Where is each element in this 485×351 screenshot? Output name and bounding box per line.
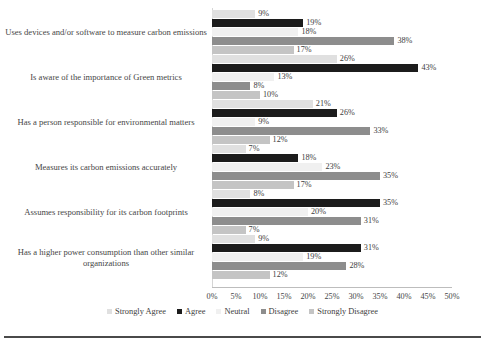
x-tick-label: 10%	[252, 292, 267, 301]
bar-groups: 9%19%18%38%17%26%43%13%8%10%21%26%9%33%1…	[212, 4, 452, 288]
x-axis-ticks: 0%5%10%15%20%25%30%35%40%45%50%	[212, 292, 452, 306]
bar	[212, 154, 298, 162]
bar-row: 18%	[212, 154, 452, 162]
bar-row: 9%	[212, 10, 452, 18]
bar-value-label: 35%	[383, 198, 398, 207]
bar-value-label: 17%	[297, 180, 312, 189]
bar-row: 38%	[212, 37, 452, 45]
bar-value-label: 18%	[301, 27, 316, 36]
bar	[212, 226, 246, 234]
bar-value-label: 8%	[253, 189, 264, 198]
bar	[212, 199, 380, 207]
legend-item[interactable]: Disagree	[261, 307, 299, 316]
bar-row: 17%	[212, 46, 452, 54]
x-axis-line	[212, 287, 452, 288]
category-label: Is aware of the importance of Green metr…	[4, 72, 208, 83]
bar	[212, 208, 308, 216]
category-label: Has a person responsible for environment…	[4, 117, 208, 128]
bar-value-label: 12%	[273, 270, 288, 279]
x-tick-label: 15%	[276, 292, 291, 301]
bar-row: 28%	[212, 262, 452, 270]
bar-value-label: 35%	[383, 171, 398, 180]
legend-item[interactable]: Neutral	[216, 307, 249, 316]
legend-swatch-icon	[177, 309, 182, 314]
bar-value-label: 12%	[273, 135, 288, 144]
bar	[212, 109, 337, 117]
bar-row: 8%	[212, 82, 452, 90]
x-tick-label: 20%	[300, 292, 315, 301]
bar	[212, 73, 274, 81]
bar-row: 7%	[212, 145, 452, 153]
bar-value-label: 43%	[421, 63, 436, 72]
legend-item[interactable]: Strongly Agree	[107, 307, 166, 316]
x-tick-label: 5%	[231, 292, 242, 301]
bar-row: 26%	[212, 55, 452, 63]
legend-item[interactable]: Agree	[177, 307, 205, 316]
bar-row: 7%	[212, 226, 452, 234]
legend-label: Disagree	[269, 307, 299, 316]
bar	[212, 10, 255, 18]
bar-value-label: 19%	[306, 18, 321, 27]
bar-row: 8%	[212, 190, 452, 198]
x-tick-label: 0%	[207, 292, 218, 301]
legend-label: Strongly Disagree	[317, 307, 378, 316]
bar	[212, 82, 250, 90]
bar-group: 26%43%13%8%10%	[212, 55, 452, 100]
x-tick-label: 25%	[324, 292, 339, 301]
bar-row: 35%	[212, 199, 452, 207]
bar-value-label: 9%	[258, 117, 269, 126]
bar-row: 31%	[212, 217, 452, 225]
bar-row: 17%	[212, 181, 452, 189]
bar-row: 9%	[212, 118, 452, 126]
bar	[212, 244, 361, 252]
bar-value-label: 18%	[301, 153, 316, 162]
legend-item[interactable]: Strongly Disagree	[309, 307, 378, 316]
bar-value-label: 23%	[325, 162, 340, 171]
x-tick-label: 50%	[444, 292, 459, 301]
category-label: Measures its carbon emissions accurately	[4, 162, 208, 173]
legend-label: Agree	[185, 307, 205, 316]
bar	[212, 118, 255, 126]
bar-row: 43%	[212, 64, 452, 72]
bar-value-label: 13%	[277, 72, 292, 81]
bar	[212, 46, 294, 54]
x-tick-label: 45%	[420, 292, 435, 301]
bar-group: 9%31%19%28%12%	[212, 235, 452, 280]
bar-value-label: 33%	[373, 126, 388, 135]
bar-group: 9%19%18%38%17%	[212, 10, 452, 55]
bar-row: 12%	[212, 136, 452, 144]
bar	[212, 190, 250, 198]
legend-label: Neutral	[224, 307, 249, 316]
bar-value-label: 31%	[364, 216, 379, 225]
bar-row: 31%	[212, 244, 452, 252]
bar-row: 23%	[212, 163, 452, 171]
bar-value-label: 9%	[258, 9, 269, 18]
bar-group: 8%35%20%31%7%	[212, 190, 452, 235]
bar	[212, 37, 394, 45]
bar	[212, 172, 380, 180]
bar	[212, 136, 270, 144]
x-tick-label: 40%	[396, 292, 411, 301]
bar-row: 26%	[212, 109, 452, 117]
bar-value-label: 20%	[311, 207, 326, 216]
bar-row: 35%	[212, 172, 452, 180]
bar	[212, 253, 303, 261]
bar-value-label: 21%	[316, 99, 331, 108]
bar	[212, 55, 337, 63]
bar-value-label: 26%	[340, 54, 355, 63]
bar-row: 9%	[212, 235, 452, 243]
bar-value-label: 17%	[297, 45, 312, 54]
bar-row: 21%	[212, 100, 452, 108]
bar	[212, 91, 260, 99]
category-label: Assumes responsibility for its carbon fo…	[4, 207, 208, 218]
bar	[212, 145, 246, 153]
bar-row: 33%	[212, 127, 452, 135]
bar-row: 19%	[212, 253, 452, 261]
bar-value-label: 38%	[397, 36, 412, 45]
x-tick-label: 35%	[372, 292, 387, 301]
x-tick-label: 30%	[348, 292, 363, 301]
bar	[212, 64, 418, 72]
chart-figure: Uses devices and/or software to measure …	[0, 0, 485, 351]
bar	[212, 28, 298, 36]
bar-row: 13%	[212, 73, 452, 81]
